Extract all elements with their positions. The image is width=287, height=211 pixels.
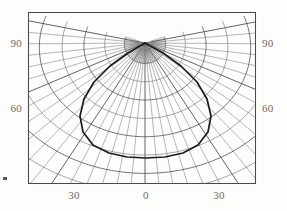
x-axis-tick-label-2: 30 [213, 189, 225, 201]
y-axis-right-tick-label-0: 90 [262, 37, 274, 49]
grid-radial-line [145, 43, 287, 211]
grid-radial-line [145, 43, 287, 211]
grid-radial-line [67, 43, 145, 211]
y-axis-left-tick-label-0: 90 [10, 37, 22, 49]
grid-radial-line [145, 43, 287, 97]
grid-radial-line [145, 43, 287, 211]
polar-contour-plot: 3003090609060 [0, 0, 287, 211]
grid-radial-line [145, 43, 287, 194]
grid-radial-line [145, 43, 171, 211]
grid-group [0, 0, 287, 211]
grid-arc [0, 0, 287, 192]
x-axis-tick-label-1: 0 [143, 189, 149, 201]
grid-radial-line [145, 43, 287, 211]
grid-radial-line [0, 43, 145, 194]
grid-radial-line [0, 43, 145, 211]
y-axis-left-tick-label-1: 60 [10, 102, 22, 114]
grid-radial-line [0, 43, 145, 211]
y-axis-right-tick-label-1: 60 [262, 102, 274, 114]
grid-radial-line [0, 43, 145, 211]
x-axis-tick-label-0: 30 [68, 189, 80, 201]
left-edge-scan-mark [3, 177, 7, 180]
grid-radial-line [119, 43, 145, 211]
grid-radial-line [0, 43, 145, 211]
edge-mark-group [3, 177, 7, 180]
grid-arc [0, 5, 287, 173]
figure-container: 3003090609060 [0, 0, 287, 211]
